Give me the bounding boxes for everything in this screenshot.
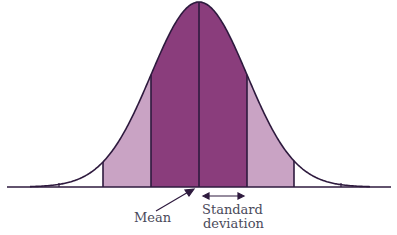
mean-arrow <box>156 189 194 211</box>
outer-band-right <box>247 0 294 187</box>
bell-curve-graphic <box>0 0 397 235</box>
std-dev-label-line2: deviation <box>203 217 264 231</box>
outer-band-left <box>103 0 151 187</box>
normal-distribution-diagram: Mean Standard deviation <box>0 0 397 235</box>
std-dev-arrow <box>203 193 244 199</box>
mean-label: Mean <box>134 211 171 225</box>
std-dev-label-line1: Standard <box>202 203 263 217</box>
